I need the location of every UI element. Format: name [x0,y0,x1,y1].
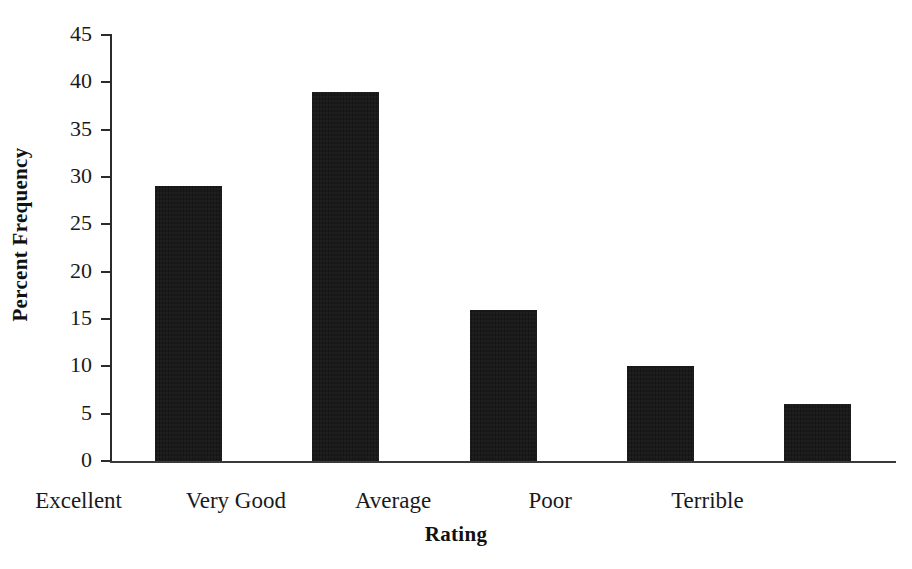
bar [155,186,222,461]
y-tick-mark [101,460,110,462]
y-tick-mark [101,365,110,367]
y-tick-label: 20 [30,260,92,282]
y-tick-label: 30 [30,165,92,187]
y-tick-label-text: 40 [36,70,92,92]
y-tick-label: 15 [30,307,92,329]
y-tick-label: 35 [30,118,92,140]
y-tick-label-text: 25 [36,212,92,234]
x-axis-title: Rating [0,522,912,547]
plot-area [110,35,895,461]
y-tick-label-text: 45 [36,23,92,45]
y-tick-label-text: 0 [36,449,92,471]
bar-chart-figure: Percent Frequency 051015202530354045 Exc… [0,0,912,569]
y-tick-label: 45 [30,23,92,45]
y-tick-mark [101,129,110,131]
x-tick-label: Terrible [597,487,817,515]
y-tick-mark [101,413,110,415]
bar [312,92,379,461]
y-tick-label: 25 [30,212,92,234]
y-tick-label-text: 10 [36,354,92,376]
y-tick-mark [101,81,110,83]
y-tick-label-text: 35 [36,118,92,140]
y-tick-mark [101,318,110,320]
y-tick-mark [101,176,110,178]
y-tick-label: 0 [30,449,92,471]
y-tick-label-text: 15 [36,307,92,329]
y-axis-ticks: 051015202530354045 [0,0,110,569]
y-tick-label-text: 30 [36,165,92,187]
x-axis-line [110,461,896,463]
y-tick-label-text: 5 [36,402,92,424]
y-tick-label: 10 [30,354,92,376]
x-axis-tick-labels: ExcellentVery GoodAveragePoorTerrible [0,487,912,521]
bar [784,404,851,461]
y-tick-mark [101,34,110,36]
bar [470,310,537,461]
y-tick-label-text: 20 [36,260,92,282]
bar [627,366,694,461]
y-tick-mark [101,223,110,225]
y-tick-label: 40 [30,70,92,92]
y-tick-mark [101,271,110,273]
y-tick-label: 5 [30,402,92,424]
